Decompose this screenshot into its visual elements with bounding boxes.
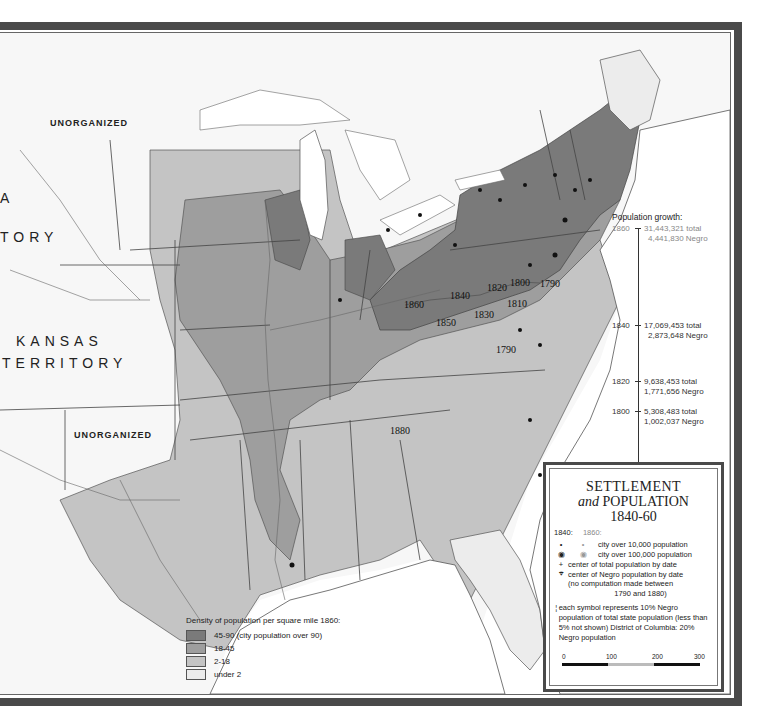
map-title: SETTLEMENT and POPULATION 1840-60 [550,479,717,524]
density-legend-item: 45-90 (city population over 90) [186,629,366,642]
scale-tick: 100 [606,653,617,660]
city-dot-faded-icon: • [568,540,598,549]
key-symbol-note: ¦ each symbol represents 10% Negro popul… [554,603,713,643]
scale-segment [654,663,700,666]
map-frame-bottom [0,698,742,706]
entry-year: 1800 [612,407,632,416]
title-line-2: POPULATION [603,494,689,509]
swatch-medium [186,643,206,654]
title-line-1: SETTLEMENT [550,479,717,494]
timeline-tick [635,325,641,326]
density-label: 18-45 [214,644,234,653]
center-date-1830: 1830 [474,309,494,320]
timeline-tick [635,411,641,412]
territory-label-territory: TERRITORY [2,355,127,371]
note-line-2: 1790 and 1880) [554,589,713,599]
timeline-tick [635,381,641,382]
territory-label-unorganized-south: UNORGANIZED [74,430,152,440]
swatch-sparse [186,669,206,680]
density-legend-item: under 2 [186,668,366,681]
key-label: city over 100,000 population [598,550,692,559]
negro-center-date-1880: 1880 [390,425,410,436]
swatch-dense [186,630,206,641]
key-label: center of total population by date [568,560,677,569]
territory-label-unorganized-north: UNORGANIZED [50,118,128,128]
swatch-light [186,656,206,667]
legend-year-1860: 1860: [583,528,602,537]
timeline-tick [635,228,641,229]
entry-total: 17,069,453 total [644,321,708,331]
map-frame-right [734,22,742,706]
scale-tick: 200 [652,653,663,660]
territory-label-partial-a: A [0,190,14,206]
large-city-icon: ◉ [554,550,568,559]
key-center-negro: ⌖ center of Negro population by date [554,569,713,579]
center-date-1860: 1860 [404,299,424,310]
entry-year: 1820 [612,377,632,386]
density-label: 2-18 [214,657,230,666]
key-label: city over 10,000 population [598,540,688,549]
density-legend: Density of population per square mile 18… [186,616,366,681]
crosshair-icon: ⌖ [554,569,568,579]
city-dot-icon: • [554,540,568,549]
center-date-1820: 1820 [487,282,507,293]
entry-negro: 4,441,830 Negro [644,234,708,244]
timeline-axis [638,228,639,468]
entry-year: 1840 [612,321,632,330]
density-label: under 2 [214,670,241,679]
title-line-3: 1840-60 [550,509,717,524]
density-label: 45-90 (city population over 90) [214,631,322,640]
scale-segment [562,663,608,666]
symbol-note-text: each symbol represents 10% Negro populat… [559,603,713,643]
entry-negro: 1,002,037 Negro [644,417,704,427]
entry-year: 1860 [612,224,632,233]
map-frame-top [0,22,742,30]
note-line-1: (no computation made between [554,579,713,589]
entry-negro: 2,873,648 Negro [644,331,708,341]
population-growth-timeline: Population growth: 1860 31,443,321 total… [608,212,728,472]
center-date-1840: 1840 [450,290,470,301]
territory-label-kansas: KANSAS [16,333,103,349]
map-inner-border-bottom [0,694,731,695]
key-label: center of Negro population by date [568,570,683,579]
key-city-100000: ◉ ◉ city over 100,000 population [554,549,713,559]
entry-total: 9,638,453 total [644,377,704,387]
negro-center-date-1790: 1790 [496,344,516,355]
territory-label-partial-tory: TORY [0,229,58,245]
cross-icon: + [554,560,568,569]
density-legend-title: Density of population per square mile 18… [186,616,366,625]
center-date-1800: 1800 [510,277,530,288]
population-growth-title: Population growth: [612,212,682,222]
density-legend-item: 18-45 [186,642,366,655]
legend-year-1840: 1840: [554,528,573,537]
scale-segment [608,663,654,666]
scale-bar: 0 100 200 300 [562,653,702,669]
center-date-1790: 1790 [540,278,560,289]
map-inner-border-right [730,32,731,695]
scale-tick: 0 [562,653,566,660]
key-center-total: + center of total population by date [554,559,713,569]
entry-total: 5,308,483 total [644,407,704,417]
key-city-10000: • • city over 10,000 population [554,539,713,549]
entry-total: 31,443,321 total [644,224,708,234]
settlement-legend-box: SETTLEMENT and POPULATION 1840-60 1840: … [543,462,724,692]
large-city-faded-icon: ◉ [568,550,598,559]
center-date-1810: 1810 [507,298,527,309]
title-and: and [578,494,599,509]
entry-negro: 1,771,656 Negro [644,387,704,397]
scale-tick: 300 [694,653,705,660]
density-legend-item: 2-18 [186,655,366,668]
center-date-1850: 1850 [436,317,456,328]
